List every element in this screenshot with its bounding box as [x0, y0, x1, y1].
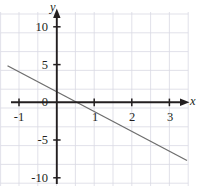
plotted-line	[8, 66, 188, 161]
graph-figure: 10 5 -5 -10 0 -1 1 2 3 y x	[0, 0, 200, 193]
coordinate-plane	[0, 0, 200, 193]
y-axis	[53, 9, 61, 185]
